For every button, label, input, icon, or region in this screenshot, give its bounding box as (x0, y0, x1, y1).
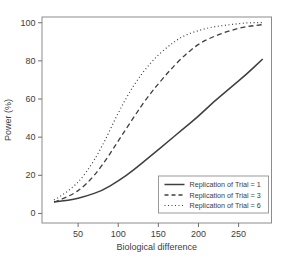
legend-label: Replication of Trial = 3 (190, 191, 261, 200)
x-axis-tick-label: 100 (111, 229, 126, 239)
series-line-dotted (54, 23, 263, 200)
legend-label: Replication of Trial = 6 (190, 201, 261, 210)
y-axis-tick-label: 0 (30, 208, 35, 218)
x-axis-tick-label: 50 (73, 229, 83, 239)
series-line-dashed (54, 25, 263, 202)
x-axis-tick-label: 200 (191, 229, 206, 239)
x-axis-tick-label: 250 (231, 229, 246, 239)
legend-label: Replication of Trial = 1 (190, 180, 261, 189)
power-curve-chart: 50100150200250020406080100Biological dif… (0, 0, 281, 261)
y-axis-tick-label: 100 (20, 18, 35, 28)
y-axis-tick-label: 60 (25, 94, 35, 104)
x-axis-title: Biological difference (117, 242, 197, 252)
power-vs-biological-difference-figure: 50100150200250020406080100Biological dif… (0, 0, 281, 261)
y-axis-tick-label: 80 (25, 56, 35, 66)
legend: Replication of Trial = 1Replication of T… (159, 176, 269, 213)
y-axis-tick-label: 40 (25, 132, 35, 142)
x-axis-tick-label: 150 (151, 229, 166, 239)
y-axis-title: Power (%) (3, 99, 13, 141)
y-axis-tick-label: 20 (25, 170, 35, 180)
